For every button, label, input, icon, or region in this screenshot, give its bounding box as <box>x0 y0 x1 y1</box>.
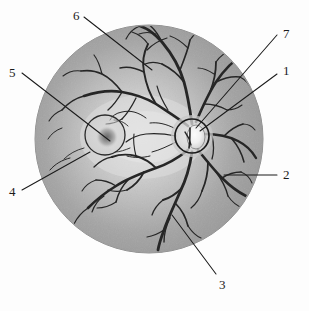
retina-fundus-figure: 1 2 3 4 5 6 7 <box>0 0 309 311</box>
label-3-inferior-vessel-branch: 3 <box>219 278 226 291</box>
label-7-central-vessels: 7 <box>283 27 290 40</box>
macula-group <box>85 115 125 155</box>
label-2-retina: 2 <box>283 168 290 181</box>
label-6-superior-vessel-branch: 6 <box>73 9 80 22</box>
label-4-macula-margin: 4 <box>9 185 16 198</box>
fundus-circle-group <box>35 25 263 253</box>
label-1-optic-disc: 1 <box>283 64 290 77</box>
fovea-centralis <box>96 126 118 148</box>
fundus-illustration <box>0 0 309 311</box>
label-5-fovea-centralis: 5 <box>9 66 16 79</box>
optic-disc-group <box>171 115 213 157</box>
